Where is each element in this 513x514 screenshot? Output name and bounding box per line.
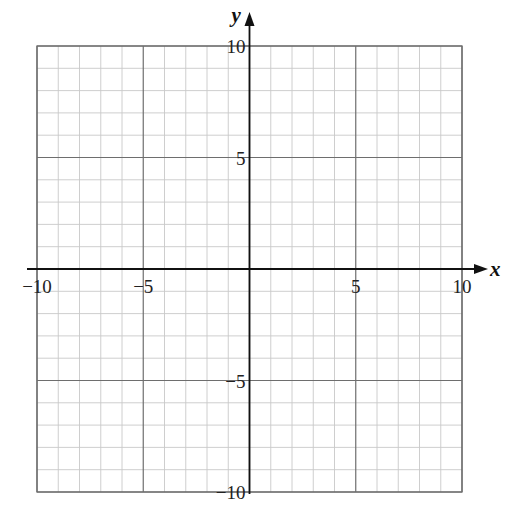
x-axis-label: x (489, 257, 501, 281)
y-tick-label: 10 (227, 36, 246, 57)
x-axis-arrow-icon (474, 264, 488, 274)
axes (27, 12, 488, 494)
x-tick-label: 5 (351, 276, 361, 297)
y-tick-label: −10 (216, 482, 246, 503)
coordinate-grid: −10−5510−10−5510 x y (0, 0, 513, 514)
y-axis-label: y (229, 3, 242, 27)
x-tick-label: 10 (453, 276, 472, 297)
y-axis-arrow-icon (245, 12, 255, 26)
x-tick-label: −5 (133, 276, 153, 297)
y-tick-label: −5 (225, 371, 245, 392)
x-tick-label: −10 (22, 276, 52, 297)
y-tick-label: 5 (236, 148, 246, 169)
